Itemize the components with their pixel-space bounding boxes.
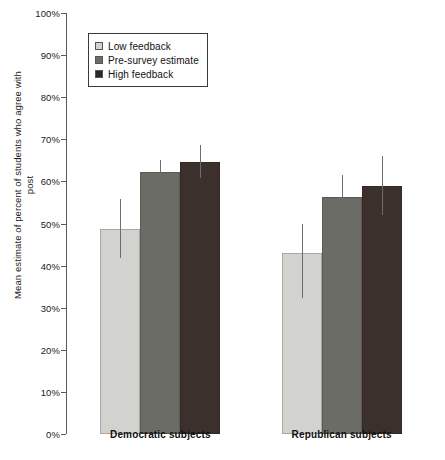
bar-chart: Mean estimate of percent of students who… [0,0,445,460]
legend: Low feedbackPre-survey estimateHigh feed… [88,33,208,87]
bar [322,197,362,434]
x-axis-group-label: Republican subjects [292,429,392,440]
y-axis-tick-mark [61,392,66,393]
y-axis-tick-mark [61,224,66,225]
error-bar [160,160,161,185]
legend-item: High feedback [95,67,199,81]
y-axis-tick-mark [61,55,66,56]
legend-swatch-high [95,70,103,78]
bar [100,229,140,434]
y-axis-tick-mark [61,13,66,14]
legend-item-label: Pre-survey estimate [108,55,199,66]
y-axis-tick-mark [61,97,66,98]
y-axis-tick-label: 80% [16,92,60,103]
y-axis-tick-label: 30% [16,302,60,313]
error-bar [382,156,383,215]
y-axis-tick-label: 20% [16,344,60,355]
y-axis-tick-labels: 100%90%80%70%60%50%40%30%20%10%0% [16,0,60,460]
y-axis-tick-mark [61,434,66,435]
error-bar [120,199,121,258]
y-axis-tick-label: 0% [16,429,60,440]
y-axis-tick-label: 90% [16,50,60,61]
bar [140,172,180,434]
bar [180,162,220,434]
error-bar [200,145,201,178]
legend-item-label: High feedback [108,69,173,80]
y-axis-tick-mark [61,139,66,140]
y-axis-line [66,13,67,434]
y-axis-tick-label: 10% [16,386,60,397]
bar [362,186,402,434]
legend-item-label: Low feedback [108,41,171,52]
legend-item: Low feedback [95,39,199,53]
error-bar [342,175,343,219]
y-axis-tick-mark [61,181,66,182]
y-axis-tick-mark [61,308,66,309]
y-axis-tick-mark [61,350,66,351]
y-axis-tick-mark [61,266,66,267]
legend-swatch-low [95,42,103,50]
error-bar [302,224,303,299]
x-axis-group-label: Democratic subjects [110,429,211,440]
legend-item: Pre-survey estimate [95,53,199,67]
y-axis-tick-label: 60% [16,176,60,187]
y-axis-tick-label: 70% [16,134,60,145]
y-axis-tick-label: 50% [16,218,60,229]
legend-swatch-pre [95,56,103,64]
y-axis-tick-label: 100% [16,8,60,19]
y-axis-tick-label: 40% [16,260,60,271]
